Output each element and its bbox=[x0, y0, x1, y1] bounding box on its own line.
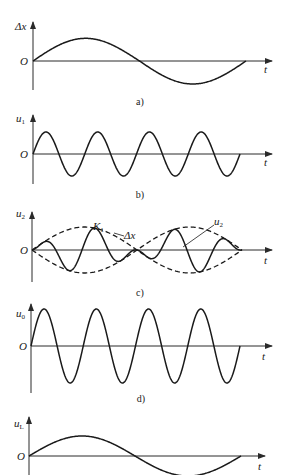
x-axis-label: t bbox=[264, 156, 268, 168]
caption-c: c) bbox=[136, 287, 144, 299]
y-axis-label: u2 bbox=[16, 207, 26, 221]
origin-label: O bbox=[20, 148, 28, 160]
caption-a: a) bbox=[136, 96, 144, 108]
y-axis-label: u1 bbox=[16, 112, 26, 126]
panel-d: u0 O t d) bbox=[16, 304, 272, 405]
x-axis-label: t bbox=[262, 350, 266, 362]
caption-d: d) bbox=[137, 393, 145, 405]
panel-e: uL O t bbox=[14, 417, 265, 475]
x-axis-label: t bbox=[264, 254, 268, 266]
u2-label: u2 bbox=[214, 215, 224, 229]
origin-label: O bbox=[17, 450, 25, 462]
panel-b: u1 O t b) bbox=[16, 112, 272, 201]
y-axis-label: Δx bbox=[14, 20, 26, 32]
x-axis-label: t bbox=[258, 460, 262, 472]
origin-label: O bbox=[19, 340, 27, 352]
caption-b: b) bbox=[136, 189, 144, 201]
origin-label: O bbox=[20, 55, 28, 67]
origin-label: O bbox=[20, 244, 28, 256]
panel-c: u2 K1 Δx u2 O t c) bbox=[16, 207, 272, 299]
y-axis-label: u0 bbox=[16, 307, 26, 321]
envelope-label: Δx bbox=[123, 229, 135, 241]
x-axis-label: t bbox=[264, 63, 268, 75]
waveform-figure: Δx O t a) u1 O t b) u2 K1 Δx u2 O t c) u… bbox=[0, 0, 284, 475]
u2-leader-line bbox=[183, 225, 214, 247]
y-axis-label: uL bbox=[14, 417, 24, 431]
k1-label: K1 bbox=[92, 220, 104, 234]
panel-a: Δx O t a) bbox=[14, 20, 272, 108]
